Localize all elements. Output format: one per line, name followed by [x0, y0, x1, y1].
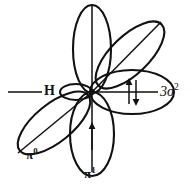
sigma-superscript-text: 2: [174, 82, 179, 92]
label-hydrogen: H: [44, 84, 55, 98]
single-electron-arrow: [89, 122, 96, 150]
orbital-diagram: H 3σ2 π0 π1: [0, 0, 195, 188]
label-pi-zero: π0: [26, 148, 38, 161]
pi-zero-superscript-text: 0: [33, 146, 37, 156]
label-sigma-orbital: 3σ2: [160, 85, 179, 99]
pi-one-superscript-text: 1: [91, 165, 95, 175]
nucleus-point: [89, 89, 95, 95]
sigma-symbol-text: 3σ: [160, 84, 174, 99]
label-pi-one: π1: [84, 167, 96, 180]
